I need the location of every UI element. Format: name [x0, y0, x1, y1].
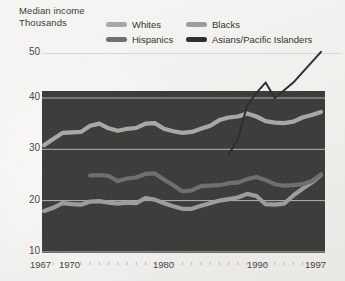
x-axis: 1967 1970 1980 1990 1997 [0, 0, 345, 281]
x-tick-1990: 1990 [247, 259, 268, 270]
x-tick-1970: 1970 [59, 259, 80, 270]
x-tick-1980: 1980 [153, 259, 174, 270]
x-tick-1967: 1967 [30, 259, 51, 270]
median-income-chart: Median income Thousands Whites Blacks Hi… [0, 0, 345, 281]
x-tick-1997: 1997 [305, 259, 326, 270]
